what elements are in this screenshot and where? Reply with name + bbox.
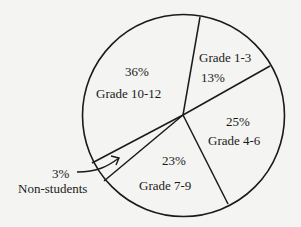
- label-g79-name: Grade 7-9: [139, 178, 191, 193]
- label-g13-name: Grade 1-3: [199, 50, 251, 65]
- label-g46-pct: 25%: [226, 114, 250, 129]
- label-g1012-name: Grade 10-12: [96, 86, 161, 101]
- slice-divider: [104, 115, 183, 181]
- label-ns-pct: 3%: [52, 166, 70, 181]
- slice-divider: [183, 17, 200, 115]
- label-g46-name: Grade 4-6: [208, 133, 261, 148]
- label-g79-pct: 23%: [162, 153, 186, 168]
- pie-chart: 36% Grade 10-12 Grade 1-3 13% 25% Grade …: [0, 0, 301, 227]
- label-ns-name: Non-students: [18, 181, 87, 196]
- label-g13-pct: 13%: [201, 70, 225, 85]
- slice-divider: [183, 66, 270, 115]
- label-g1012-pct: 36%: [125, 64, 149, 79]
